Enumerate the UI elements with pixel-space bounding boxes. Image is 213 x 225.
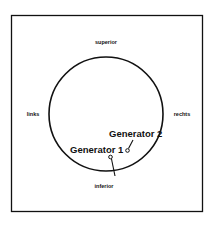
label-superior: superior [95, 39, 118, 45]
generator-2-pointer [129, 140, 134, 149]
label-links: links [27, 111, 40, 117]
label-rechts: rechts [174, 111, 191, 117]
generator-1-label: Generator 1 [70, 144, 124, 155]
label-inferior: inferior [95, 183, 115, 189]
diagram-canvas: superior links rechts inferior Generator… [0, 0, 213, 225]
generator-1-pointer [112, 159, 116, 176]
generator-2-marker [126, 149, 130, 153]
generator-2-label: Generator 2 [109, 128, 162, 139]
generator-1-marker [109, 155, 113, 159]
